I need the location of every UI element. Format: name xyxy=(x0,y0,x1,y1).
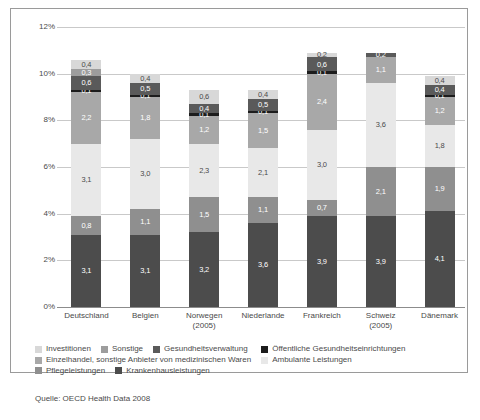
bar-segment-value: 3,6 xyxy=(376,121,386,129)
y-axis-tick-label: 4% xyxy=(15,209,55,218)
bar-segment[interactable]: 1,2 xyxy=(189,116,219,144)
bar-segment[interactable]: 0,1 xyxy=(130,95,160,97)
bar-stack[interactable]: 3,11,13,01,80,10,50,4 xyxy=(130,74,160,307)
bar-segment[interactable]: 1,1 xyxy=(130,209,160,235)
gridline xyxy=(57,307,465,308)
bar-segment-value: 0,3 xyxy=(82,69,92,77)
bar-segment-value: 0,2 xyxy=(317,51,327,59)
legend-label: Einzelhandel, sonstige Anbieter von medi… xyxy=(46,356,251,365)
legend-row-1: InvestitionenSonstigeGesundheitsverwaltu… xyxy=(35,345,475,377)
legend-swatch-icon xyxy=(35,357,42,364)
bar-segment[interactable]: 0,1 xyxy=(71,90,101,92)
legend-label: Sonstige xyxy=(112,345,143,354)
bar-segment-value: 2,2 xyxy=(82,114,92,122)
bar-segment[interactable]: 0,1 xyxy=(425,95,455,97)
bar-segment[interactable]: 1,8 xyxy=(425,125,455,167)
bar-group[interactable]: 3,92,13,61,10,2Schweiz(2005) xyxy=(358,27,404,307)
bar-segment-value: 0,4 xyxy=(435,86,445,94)
source-note: Quelle: OECD Health Data 2008 xyxy=(35,394,150,403)
bar-stack[interactable]: 3,92,13,61,10,2 xyxy=(366,53,396,307)
legend-item[interactable]: Einzelhandel, sonstige Anbieter von medi… xyxy=(35,356,251,365)
bar-segment[interactable]: 1,5 xyxy=(189,197,219,232)
bar-segment[interactable]: 0,4 xyxy=(425,85,455,94)
legend-label: Investitionen xyxy=(46,345,91,354)
bar-segment[interactable]: 3,0 xyxy=(130,139,160,209)
bar-segment-value: 2,1 xyxy=(258,169,268,177)
legend-item[interactable]: Investitionen xyxy=(35,345,91,354)
legend-item[interactable]: Pflegeleistungen xyxy=(35,367,105,376)
bar-segment[interactable]: 3,1 xyxy=(71,235,101,307)
bar-segment[interactable]: 2,2 xyxy=(71,92,101,143)
bar-group[interactable]: 4,11,91,81,20,10,40,4Dänemark xyxy=(417,27,463,307)
bar-segment-value: 0,7 xyxy=(317,204,327,212)
bar-segment[interactable]: 3,1 xyxy=(130,235,160,307)
bar-segment[interactable]: 2,3 xyxy=(189,144,219,198)
bar-segment-value: 3,9 xyxy=(376,258,386,266)
bar-segment[interactable]: 2,1 xyxy=(366,167,396,216)
bar-group[interactable]: 3,90,73,02,40,10,60,2Frankreich xyxy=(299,27,345,307)
bar-segment[interactable]: 0,5 xyxy=(130,83,160,95)
bar-segment[interactable]: 2,1 xyxy=(248,148,278,197)
bar-segment[interactable]: 4,1 xyxy=(425,211,455,307)
bar-segment[interactable]: 0,4 xyxy=(130,74,160,83)
bar-stack[interactable]: 3,61,12,11,50,10,50,4 xyxy=(248,90,278,307)
bar-segment[interactable]: 1,1 xyxy=(248,197,278,223)
bar-segment[interactable]: 0,6 xyxy=(71,76,101,90)
x-axis-category-label: Niederlande xyxy=(234,311,292,321)
bar-segment[interactable]: 0,4 xyxy=(189,104,219,113)
bar-group[interactable]: 3,11,13,01,80,10,50,4Belgien xyxy=(122,27,168,307)
bar-group[interactable]: 3,21,52,31,20,10,40,6Norwegen(2005) xyxy=(181,27,227,307)
bar-segment[interactable]: 0,1 xyxy=(248,111,278,113)
legend-swatch-icon xyxy=(35,367,42,374)
bar-segment[interactable]: 3,0 xyxy=(307,130,337,200)
bar-segment-value: 0,4 xyxy=(140,75,150,83)
bar-segment[interactable]: 1,1 xyxy=(366,57,396,83)
bar-group[interactable]: 3,10,83,12,20,10,60,30,4Deutschland xyxy=(63,27,109,307)
y-axis-tick-label: 6% xyxy=(15,162,55,171)
bar-segment[interactable]: 3,9 xyxy=(307,216,337,307)
bar-segment[interactable]: 0,1 xyxy=(189,113,219,115)
y-axis-tick-label: 10% xyxy=(15,69,55,78)
legend-item[interactable]: Krankenhausleistungen xyxy=(115,367,210,376)
bar-stack[interactable]: 3,90,73,02,40,10,60,2 xyxy=(307,53,337,307)
bar-segment[interactable]: 1,9 xyxy=(425,167,455,211)
bar-segment[interactable]: 1,2 xyxy=(425,97,455,125)
bar-stack[interactable]: 3,10,83,12,20,10,60,30,4 xyxy=(71,60,101,307)
bar-segment[interactable]: 0,6 xyxy=(307,57,337,71)
bar-segment[interactable]: 0,5 xyxy=(248,99,278,111)
bar-segment[interactable]: 0,6 xyxy=(189,90,219,104)
bar-segment[interactable]: 2,4 xyxy=(307,74,337,130)
bar-series-container: 3,10,83,12,20,10,60,30,4Deutschland3,11,… xyxy=(57,27,469,307)
x-axis-category-label: Norwegen(2005) xyxy=(175,311,233,331)
bar-segment-value: 3,2 xyxy=(199,266,209,274)
legend-item[interactable]: Sonstige xyxy=(101,345,143,354)
bar-segment[interactable]: 1,8 xyxy=(130,97,160,139)
bar-segment[interactable]: 0,8 xyxy=(71,216,101,235)
bar-segment[interactable]: 3,6 xyxy=(248,223,278,307)
bar-segment-value: 3,1 xyxy=(82,267,92,275)
bar-stack[interactable]: 3,21,52,31,20,10,40,6 xyxy=(189,90,219,307)
legend-column-right: Öffentliche GesundheitseinrichtungenAmbu… xyxy=(261,345,475,367)
bar-segment[interactable]: 3,9 xyxy=(366,216,396,307)
bar-segment[interactable]: 1,5 xyxy=(248,113,278,148)
bar-segment[interactable]: 0,4 xyxy=(248,90,278,99)
bar-segment[interactable]: 0,2 xyxy=(366,53,396,58)
legend-item[interactable]: Öffentliche Gesundheitseinrichtungen xyxy=(261,345,405,354)
bar-segment-value: 0,6 xyxy=(199,93,209,101)
bar-segment-value: 3,1 xyxy=(82,176,92,184)
bar-group[interactable]: 3,61,12,11,50,10,50,4Niederlande xyxy=(240,27,286,307)
bar-segment[interactable]: 0,2 xyxy=(307,53,337,58)
bar-segment[interactable]: 0,4 xyxy=(71,60,101,69)
bar-segment-value: 1,1 xyxy=(140,218,150,226)
bar-stack[interactable]: 4,11,91,81,20,10,40,4 xyxy=(425,76,455,307)
bar-segment[interactable]: 0,7 xyxy=(307,200,337,216)
bar-segment[interactable]: 0,1 xyxy=(307,71,337,73)
chart-frame: 0%2%4%6%8%10%12% 3,10,83,12,20,10,60,30,… xyxy=(10,8,468,373)
bar-segment[interactable]: 0,3 xyxy=(71,69,101,76)
legend-item[interactable]: Ambulante Leistungen xyxy=(261,356,352,365)
bar-segment[interactable]: 3,2 xyxy=(189,232,219,307)
bar-segment[interactable]: 0,4 xyxy=(425,76,455,85)
bar-segment[interactable]: 3,1 xyxy=(71,144,101,216)
legend-item[interactable]: Gesundheitsverwaltung xyxy=(153,345,248,354)
bar-segment[interactable]: 3,6 xyxy=(366,83,396,167)
